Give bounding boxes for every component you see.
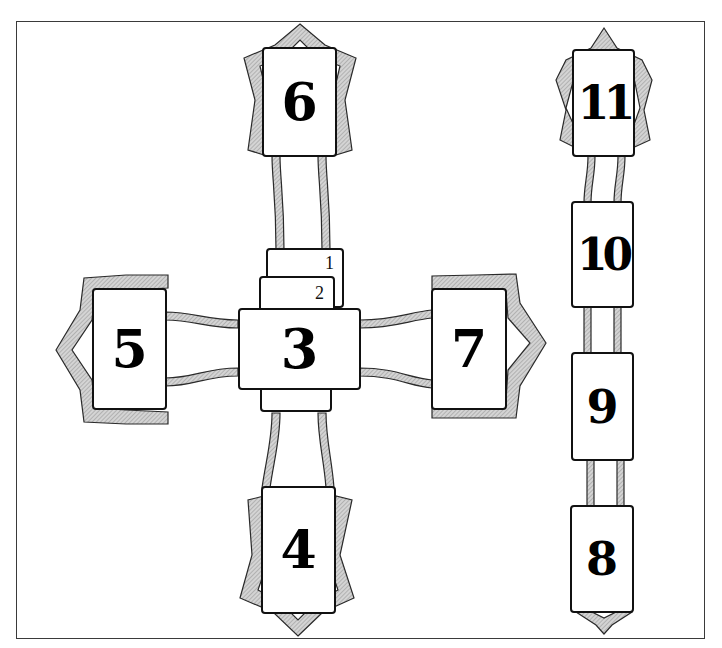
card-4[interactable]: 4 xyxy=(261,486,336,614)
connector-11-10 xyxy=(584,156,595,203)
card-5[interactable]: 5 xyxy=(92,288,167,410)
card-1-label: 1 xyxy=(325,253,334,274)
card-8-label: 8 xyxy=(586,536,618,582)
connector-bottom xyxy=(262,413,280,488)
connector-left xyxy=(165,312,238,328)
connector-10-9 xyxy=(584,307,591,353)
card-8[interactable]: 8 xyxy=(570,505,634,613)
card-11-label: 11 xyxy=(577,80,629,126)
card-7-label: 7 xyxy=(451,323,487,375)
card-3[interactable]: 3 xyxy=(238,308,361,390)
spread-diagram: 1 2 3 6 4 5 7 11 10 9 8 xyxy=(0,0,722,648)
card-10-label: 10 xyxy=(577,233,628,277)
connector-right xyxy=(360,310,432,328)
connector-9-8 xyxy=(587,460,594,506)
card-3-label: 3 xyxy=(281,322,319,376)
card-4-label: 4 xyxy=(280,524,316,576)
card-9[interactable]: 9 xyxy=(571,352,634,461)
card-7[interactable]: 7 xyxy=(431,288,507,410)
connector-top xyxy=(272,155,284,250)
card-6-label: 6 xyxy=(281,76,317,128)
card-2-label: 2 xyxy=(315,283,324,304)
card-6[interactable]: 6 xyxy=(262,47,337,157)
card-5-label: 5 xyxy=(111,323,147,375)
card-11[interactable]: 11 xyxy=(572,49,635,157)
card-10[interactable]: 10 xyxy=(571,201,634,308)
card-9-label: 9 xyxy=(586,384,618,430)
